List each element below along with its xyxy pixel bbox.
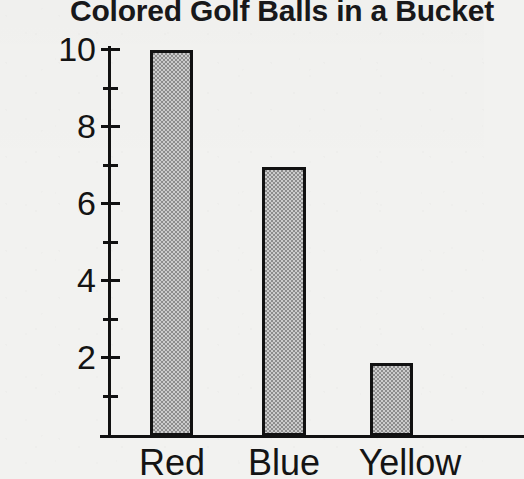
y-tick-minor-9 bbox=[103, 87, 118, 90]
y-tick-minor-5 bbox=[103, 241, 118, 244]
x-tick-label-yellow: Yellow bbox=[330, 444, 490, 479]
bar-red bbox=[150, 50, 193, 436]
bar-blue bbox=[262, 167, 306, 436]
y-tick-minor-1 bbox=[103, 395, 118, 398]
y-tick-label-2: 2 bbox=[0, 340, 96, 374]
y-tick-minor-3 bbox=[103, 318, 118, 321]
y-tick-label-6: 6 bbox=[0, 186, 96, 220]
y-tick-major-4 bbox=[101, 279, 120, 282]
y-tick-major-10 bbox=[101, 48, 120, 51]
y-tick-label-10: 10 bbox=[0, 32, 96, 66]
y-tick-label-4: 4 bbox=[0, 263, 96, 297]
x-tick-label-blue: Blue bbox=[224, 444, 344, 479]
bar-yellow bbox=[370, 363, 413, 436]
plot-area: 10 8 6 4 2 Red Blue Yellow bbox=[40, 16, 524, 479]
y-tick-major-6 bbox=[101, 202, 120, 205]
x-tick-label-red: Red bbox=[112, 444, 232, 479]
y-tick-minor-7 bbox=[103, 164, 118, 167]
bar-chart: Colored Golf Balls in a Bucket 10 8 6 4 … bbox=[40, 16, 524, 479]
y-tick-major-2 bbox=[101, 356, 120, 359]
y-tick-major-8 bbox=[101, 125, 120, 128]
y-tick-label-8: 8 bbox=[0, 109, 96, 143]
